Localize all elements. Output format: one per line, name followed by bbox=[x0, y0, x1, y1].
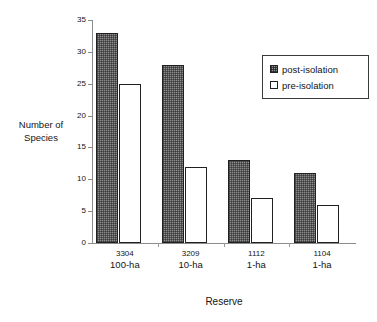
legend-item-pre[interactable]: pre-isolation bbox=[270, 77, 362, 93]
bar-post-isolation bbox=[162, 65, 184, 243]
x-axis-separator-tick bbox=[158, 243, 159, 247]
x-axis-category-label: 3304100-ha bbox=[92, 248, 158, 270]
category-code: 1104 bbox=[289, 248, 355, 259]
bar-group bbox=[224, 20, 290, 243]
x-axis-separator-tick bbox=[289, 243, 290, 247]
bar-pre-isolation bbox=[251, 198, 273, 243]
y-axis-tick-label: 15 bbox=[77, 142, 86, 151]
x-axis-separator-tick bbox=[224, 243, 225, 247]
category-code: 1112 bbox=[224, 248, 290, 259]
y-axis-title: Number of Species bbox=[4, 118, 78, 144]
category-code: 3209 bbox=[158, 248, 224, 259]
bar-group bbox=[158, 20, 224, 243]
legend-swatch-post bbox=[270, 65, 278, 73]
legend-item-post[interactable]: post-isolation bbox=[270, 61, 362, 77]
category-size: 100-ha bbox=[92, 259, 158, 270]
bar-group bbox=[289, 20, 355, 243]
bar-pre-isolation bbox=[119, 84, 141, 243]
y-axis-title-line2: Species bbox=[24, 132, 58, 143]
x-axis-category-label: 320910-ha bbox=[158, 248, 224, 270]
chart-legend: post-isolationpre-isolation bbox=[262, 55, 369, 99]
y-axis-title-line1: Number of bbox=[19, 119, 63, 130]
x-axis-category-label: 11121-ha bbox=[224, 248, 290, 270]
plot-area bbox=[92, 20, 355, 243]
y-axis-tick-label: 25 bbox=[77, 79, 86, 88]
y-axis-tick-label: 35 bbox=[77, 15, 86, 24]
bar-post-isolation bbox=[294, 173, 316, 243]
bar-post-isolation bbox=[96, 33, 118, 243]
x-axis-category-label: 11041-ha bbox=[289, 248, 355, 270]
bar-chart-figure: 05101520253035 3304100-ha320910-ha11121-… bbox=[0, 0, 377, 322]
legend-label: post-isolation bbox=[282, 64, 338, 75]
category-size: 1-ha bbox=[224, 259, 290, 270]
y-axis-tick-label: 0 bbox=[82, 238, 86, 247]
category-code: 3304 bbox=[92, 248, 158, 259]
y-axis-tick-label: 30 bbox=[77, 47, 86, 56]
bar-pre-isolation bbox=[185, 167, 207, 243]
bar-pre-isolation bbox=[317, 205, 339, 243]
category-size: 10-ha bbox=[158, 259, 224, 270]
y-axis-tick-label: 20 bbox=[77, 111, 86, 120]
category-size: 1-ha bbox=[289, 259, 355, 270]
legend-swatch-pre bbox=[270, 81, 278, 89]
y-axis-tick-label: 5 bbox=[82, 206, 86, 215]
legend-label: pre-isolation bbox=[282, 80, 334, 91]
y-axis-tick-label: 10 bbox=[77, 174, 86, 183]
y-axis-tick-mark bbox=[88, 243, 92, 244]
bar-group bbox=[92, 20, 158, 243]
x-axis-title: Reserve bbox=[92, 296, 356, 307]
bar-post-isolation bbox=[228, 160, 250, 243]
